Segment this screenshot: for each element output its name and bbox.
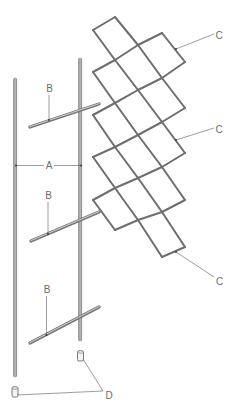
cross-rod-top xyxy=(30,104,99,127)
pole-left xyxy=(14,78,17,377)
label-a: A xyxy=(46,160,53,171)
end-cap-right xyxy=(78,351,84,361)
diagram-canvas: A B B B C C C D xyxy=(0,0,237,410)
trellis-assembly-diagram: A B B B C C C D xyxy=(0,0,237,410)
pole-right xyxy=(79,58,82,341)
end-cap-left xyxy=(12,387,18,397)
label-b-middle: B xyxy=(45,190,52,201)
label-b-top: B xyxy=(46,83,53,94)
cross-rods xyxy=(30,104,99,343)
lattice-panel xyxy=(93,17,185,257)
label-b-bottom: B xyxy=(44,284,51,295)
label-c-top: C xyxy=(215,30,222,41)
label-c-middle: C xyxy=(215,124,222,135)
label-d: D xyxy=(105,390,112,401)
cross-rod-middle xyxy=(31,212,99,241)
leader-dots xyxy=(15,48,177,336)
cross-rod-bottom xyxy=(30,307,99,343)
label-c-bottom: C xyxy=(216,276,223,287)
